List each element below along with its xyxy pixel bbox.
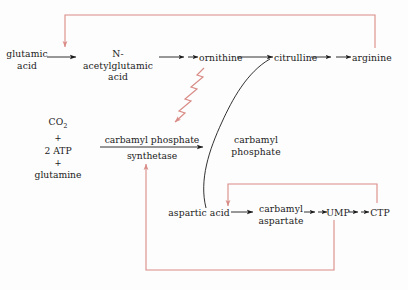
node-carbamyl-phosphate: carbamyl phosphate — [228, 134, 284, 157]
node-arginine: arginine — [352, 52, 388, 64]
node-ornithine: ornithine — [199, 52, 239, 64]
enzyme-product-label: carbamyl phosphate — [96, 134, 208, 146]
reagent-plus-1: + — [22, 132, 94, 144]
reagents-stack: CO2 + 2 ATP + glutamine — [22, 116, 94, 182]
feedback-arginine-inhibition — [65, 15, 375, 48]
node-carbamyl-phosphate-line1: carbamyl — [228, 134, 284, 146]
node-aspartic-acid: aspartic acid — [168, 207, 230, 219]
node-ctp: CTP — [367, 207, 393, 219]
activation-squiggle-ornithine-to-synthetase — [175, 68, 204, 122]
node-carbamyl-aspartate-line1: carbamyl — [256, 203, 306, 215]
node-carbamyl-aspartate: carbamyl aspartate — [256, 203, 306, 226]
node-ump: UMP — [325, 207, 351, 219]
node-carbamyl-aspartate-line2: aspartate — [256, 215, 306, 227]
node-carbamyl-phosphate-line2: phosphate — [228, 146, 284, 158]
reagent-co2: CO2 — [22, 116, 94, 132]
node-glutamic-acid-line2: acid — [6, 60, 48, 72]
enzyme-name-label: synthetase — [96, 150, 208, 162]
node-n-acetylglutamic-acid-line2: acid — [78, 71, 158, 83]
pathway-diagram-canvas: glutamic acid N-acetylglutamic acid orni… — [0, 0, 408, 290]
reagent-plus-2: + — [22, 157, 94, 169]
node-glutamic-acid-line1: glutamic — [6, 48, 48, 60]
reagent-glutamine: glutamine — [22, 169, 94, 181]
node-glutamic-acid: glutamic acid — [6, 48, 48, 71]
co2-subscript: 2 — [63, 122, 67, 130]
reagent-atp: 2 ATP — [22, 145, 94, 157]
node-citrulline: citrulline — [274, 52, 312, 64]
node-n-acetylglutamic-acid: N-acetylglutamic acid — [78, 48, 158, 83]
node-n-acetylglutamic-acid-line1: N-acetylglutamic — [78, 48, 158, 71]
